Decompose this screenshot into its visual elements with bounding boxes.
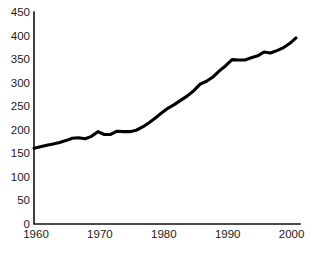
y-tick-label: 150 [11,147,30,159]
x-tick-label: 1970 [87,228,113,240]
x-axis-tick-labels: 19601970198019902000 [23,228,304,240]
x-tick-label: 1980 [151,228,177,240]
chart-plot-area: 050100150200250300350400450 196019701980… [0,0,310,254]
x-tick-label: 2000 [279,228,305,240]
line-chart-figure: 050100150200250300350400450 196019701980… [0,0,310,254]
x-tick-label: 1990 [215,228,241,240]
data-series-line [34,38,296,148]
chart-axes [34,12,300,224]
y-axis-tick-labels: 050100150200250300350400450 [11,6,30,230]
y-tick-label: 300 [11,77,30,89]
y-tick-label: 250 [11,100,30,112]
y-tick-label: 50 [17,194,30,206]
y-tick-label: 450 [11,6,30,18]
y-tick-label: 350 [11,53,30,65]
y-tick-label: 100 [11,171,30,183]
y-tick-label: 400 [11,30,30,42]
x-tick-label: 1960 [23,228,49,240]
y-tick-label: 200 [11,124,30,136]
